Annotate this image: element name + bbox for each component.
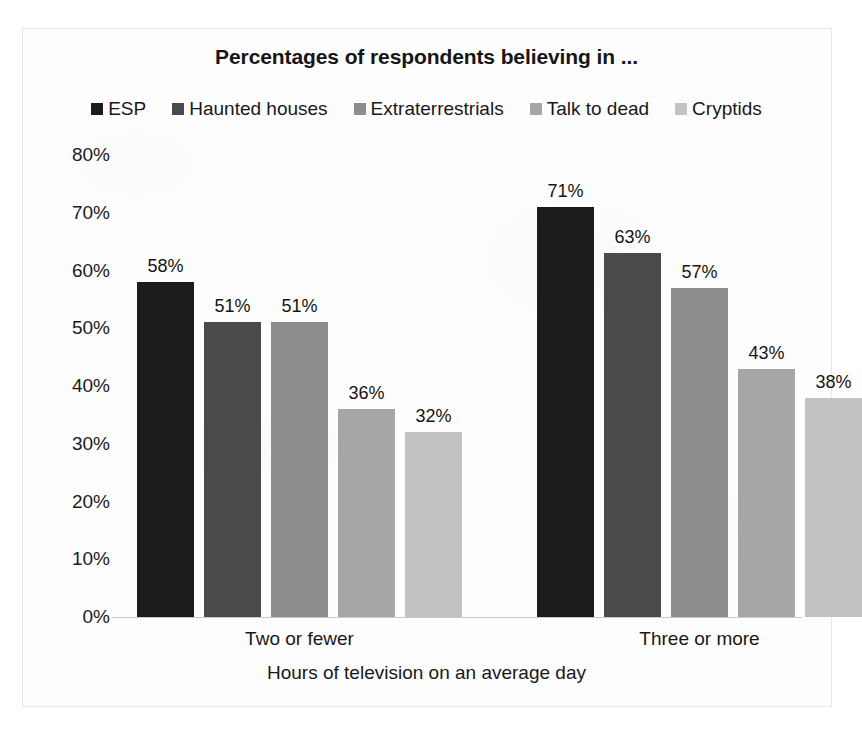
bar-value-label: 58% [147,256,183,277]
bar-value-label: 51% [281,296,317,317]
y-axis-tick-label: 40% [24,375,110,397]
y-axis-tick-label: 10% [24,548,110,570]
bar[interactable] [137,282,194,617]
bar[interactable] [405,432,462,617]
bar-value-label: 57% [681,262,717,283]
y-axis-tick-label: 60% [24,260,110,282]
x-axis-title: Hours of television on an average day [0,662,853,684]
bar-value-label: 51% [214,296,250,317]
bar-value-label: 38% [815,372,851,393]
y-axis-tick-label: 80% [24,144,110,166]
bar-value-label: 36% [348,383,384,404]
bar[interactable] [338,409,395,617]
category-axis-label: Two or fewer [245,628,354,650]
bar[interactable] [738,369,795,617]
bar[interactable] [604,253,661,617]
bar[interactable] [805,398,862,617]
bar-value-label: 43% [748,343,784,364]
bar[interactable] [537,207,594,617]
y-axis-tick-label: 20% [24,491,110,513]
y-axis-tick-label: 50% [24,317,110,339]
bar[interactable] [204,322,261,617]
bar-value-label: 63% [614,227,650,248]
bar[interactable] [271,322,328,617]
bar[interactable] [671,288,728,617]
bar-value-label: 32% [415,406,451,427]
y-axis-tick-label: 70% [24,202,110,224]
category-axis-label: Three or more [639,628,759,650]
bar-value-label: 71% [547,181,583,202]
category-axis-line [112,617,802,618]
y-axis-tick-label: 30% [24,433,110,455]
y-axis-tick-label: 0% [24,606,110,628]
